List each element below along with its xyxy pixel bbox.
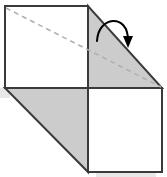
top-right-triangle <box>88 6 162 88</box>
figure-canvas <box>0 0 167 177</box>
bottom-left-triangle <box>5 88 88 172</box>
bottom-right-square <box>88 88 162 172</box>
top-left-square <box>5 6 88 88</box>
geometry-figure <box>0 0 167 177</box>
